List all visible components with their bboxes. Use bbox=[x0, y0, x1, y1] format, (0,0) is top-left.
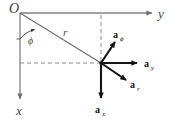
r-label: r bbox=[63, 26, 68, 38]
a-y-label-base: a bbox=[144, 58, 149, 69]
a-y-label-subscript: y bbox=[150, 64, 155, 72]
a-x-label-base: a bbox=[95, 104, 100, 115]
a-r-label: a r bbox=[130, 79, 140, 93]
vector-origin-point bbox=[99, 61, 103, 65]
a-x-label-subscript: x bbox=[101, 110, 106, 118]
a-phi-vector bbox=[101, 42, 115, 63]
a-phi-label: a ϕ bbox=[113, 29, 124, 43]
y-axis-label: y bbox=[156, 6, 164, 21]
a-y-label: a y bbox=[144, 58, 155, 72]
vector-diagram-figure: O y x r ϕ a ϕ a y a r a x bbox=[0, 0, 183, 121]
a-phi-label-subscript: ϕ bbox=[120, 35, 124, 43]
x-axis-label: x bbox=[15, 103, 22, 118]
a-r-label-base: a bbox=[130, 79, 135, 90]
a-x-label: a x bbox=[95, 104, 106, 118]
origin-label: O bbox=[9, 1, 19, 16]
diagram-canvas: O y x r ϕ a ϕ a y a r a x bbox=[0, 0, 183, 121]
phi-label: ϕ bbox=[28, 35, 33, 46]
a-phi-label-base: a bbox=[113, 29, 118, 40]
a-r-label-subscript: r bbox=[137, 85, 140, 93]
a-r-vector bbox=[101, 63, 126, 80]
